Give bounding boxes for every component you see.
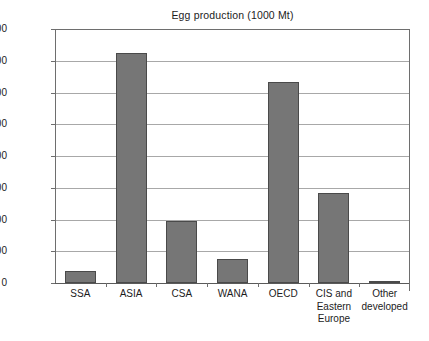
x-tick-mark-5 [309,283,310,287]
x-label-line: Eastern [309,301,360,314]
x-tick-mark-3 [207,283,208,287]
y-tick-label-2000: 2,000 [0,246,7,256]
y-tick-label-10000: 10,000 [0,119,7,129]
x-axis-category-labels: SSAASIACSAWANAOECDCIS andEasternEuropeOt… [55,288,410,340]
x-tick-mark-2 [156,283,157,287]
y-tick-label-4000: 4,000 [0,215,7,225]
x-label-csa: CSA [156,288,207,301]
bar [369,281,400,283]
bars-group [55,29,410,283]
x-label-cis-and-eastern-europe: CIS andEasternEurope [309,288,360,326]
y-tick-label-12000: 12,000 [0,88,7,98]
x-label-oecd: OECD [258,288,309,301]
x-label-line: ASIA [106,288,157,301]
bar [318,193,349,283]
x-label-line: OECD [258,288,309,301]
bar [166,221,197,283]
y-tick-label-8000: 8,000 [0,151,7,161]
egg-production-bar-chart: Egg production (1000 Mt) 02,0004,0006,00… [0,0,429,341]
bar [217,259,248,283]
x-tick-mark-1 [106,283,107,287]
x-label-line: SSA [55,288,106,301]
x-label-wana: WANA [207,288,258,301]
x-label-line: CSA [156,288,207,301]
chart-title: Egg production (1000 Mt) [55,9,410,22]
y-tick-label-6000: 6,000 [0,183,7,193]
bar [268,82,299,283]
x-label-line: Europe [309,313,360,326]
y-tick-label-0: 0 [0,278,7,288]
x-label-other-developed: Otherdeveloped [359,288,410,313]
x-label-asia: ASIA [106,288,157,301]
x-label-line: CIS and [309,288,360,301]
x-label-line: developed [359,301,410,314]
x-tick-mark-6 [359,283,360,287]
x-label-ssa: SSA [55,288,106,301]
x-tick-mark-4 [258,283,259,287]
x-label-line: WANA [207,288,258,301]
y-tick-label-14000: 14,000 [0,56,7,66]
y-tick-mark-0 [51,283,55,284]
plot-area [55,29,410,283]
bar [65,271,96,283]
y-tick-label-16000: 16,000 [0,24,7,34]
x-label-line: Other [359,288,410,301]
x-axis-baseline [55,283,410,284]
bar [116,53,147,283]
